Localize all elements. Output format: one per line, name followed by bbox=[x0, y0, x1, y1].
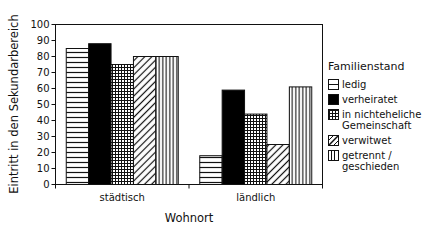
legend-item: ledig bbox=[328, 79, 427, 90]
bar bbox=[156, 57, 178, 185]
y-tick-label: 100 bbox=[30, 19, 49, 30]
legend-item: verheiratet bbox=[328, 94, 427, 105]
y-tick-label: 50 bbox=[37, 99, 50, 110]
bar bbox=[200, 156, 222, 185]
bar bbox=[222, 90, 244, 184]
legend-item: in nichteheliche Gemeinschaft bbox=[328, 109, 427, 131]
y-axis: 0102030405060708090100 bbox=[30, 19, 55, 190]
y-tick-label: 30 bbox=[37, 131, 50, 142]
bar bbox=[111, 65, 133, 185]
bar bbox=[89, 44, 111, 185]
x-category-label: ländlich bbox=[236, 192, 275, 203]
grid-swatch-icon bbox=[328, 109, 339, 120]
solid-black-swatch-icon bbox=[328, 94, 339, 105]
diagonal-lines-swatch-icon bbox=[328, 135, 339, 146]
y-axis-title: Eintritt in den Sekundarbereich bbox=[7, 14, 21, 193]
y-tick-label: 60 bbox=[37, 83, 50, 94]
y-tick-label: 70 bbox=[37, 67, 50, 78]
legend-item: verwitwet bbox=[328, 135, 427, 146]
legend-label: ledig bbox=[342, 79, 366, 90]
horizontal-lines-swatch-icon bbox=[328, 79, 339, 90]
y-tick-label: 80 bbox=[37, 51, 50, 62]
y-tick-label: 0 bbox=[43, 179, 49, 190]
y-tick-label: 40 bbox=[37, 115, 50, 126]
bars bbox=[66, 44, 312, 185]
y-tick-label: 10 bbox=[37, 163, 50, 174]
legend-item: getrennt / geschieden bbox=[328, 150, 427, 172]
legend-label: verwitwet bbox=[342, 135, 391, 146]
legend-label: getrennt / geschieden bbox=[342, 150, 399, 172]
bar bbox=[245, 114, 267, 184]
legend-title: Familienstand bbox=[328, 60, 427, 73]
bar bbox=[66, 49, 88, 185]
legend-label: verheiratet bbox=[342, 94, 398, 105]
bar bbox=[289, 87, 311, 185]
legend-label: in nichteheliche Gemeinschaft bbox=[342, 109, 421, 131]
x-axis: städtischländlich bbox=[56, 185, 323, 203]
y-tick-label: 90 bbox=[37, 35, 50, 46]
vertical-lines-swatch-icon bbox=[328, 150, 339, 161]
bar bbox=[267, 145, 289, 185]
x-axis-title: Wohnort bbox=[165, 211, 214, 225]
bar bbox=[133, 57, 155, 185]
y-tick-label: 20 bbox=[37, 147, 50, 158]
legend: Familienstand ledigverheiratetin nichteh… bbox=[328, 60, 427, 176]
x-category-label: städtisch bbox=[100, 192, 145, 203]
